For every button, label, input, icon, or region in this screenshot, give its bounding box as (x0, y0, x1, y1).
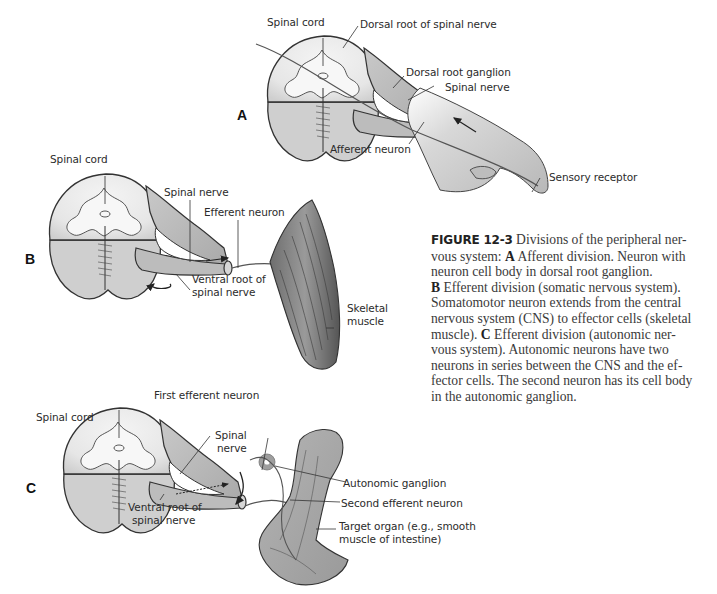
caption-text: muscle). (431, 327, 481, 342)
caption-line: nervous system (CNS) to effector cells (… (431, 311, 711, 327)
caption-line: vous system: A Afferent division. Neuron… (431, 249, 711, 265)
caption-text: Divisions of the peripheral ner- (513, 232, 687, 247)
label-c-target-organ-line2: muscle of intestine) (339, 533, 441, 546)
caption-text: Somatomotor neuron extends from the cent… (431, 295, 681, 310)
label-a-sensory-receptor: Sensory receptor (549, 171, 637, 184)
label-a-dorsal-root: Dorsal root of spinal nerve (360, 18, 497, 31)
caption-line: in the autonomic ganglion. (431, 389, 711, 405)
label-c-autonomic-ganglion: Autonomic ganglion (343, 477, 446, 490)
caption-line: B Efferent division (somatic nervous sys… (431, 280, 711, 296)
caption-text: Afferent division. Neuron with (515, 249, 686, 264)
caption-panel-ref-c: C (481, 327, 491, 342)
figure-12-3: A B C Spinal cord Dorsal root of spinal … (0, 0, 717, 594)
label-b-skeletal-muscle-line2: muscle (347, 315, 384, 328)
caption-text: neuron cell body in dorsal root ganglion… (431, 264, 653, 279)
caption-text: nervous system (CNS) to effector cells (… (431, 311, 691, 326)
skeletal-muscle-illustration (270, 200, 340, 369)
label-b-spinal-nerve: Spinal nerve (164, 186, 229, 199)
caption-text: Efferent division (somatic nervous syste… (440, 280, 681, 295)
label-b-skeletal-muscle-line1: Skeletal (347, 302, 388, 315)
caption-line: neurons in series between the CNS and th… (431, 358, 711, 374)
caption-panel-ref-a: A (505, 249, 515, 264)
label-a-spinal-nerve: Spinal nerve (445, 81, 510, 94)
caption-line: fector cells. The second neuron has its … (431, 373, 711, 389)
label-c-ventral-root-line2: spinal nerve (132, 514, 195, 527)
panel-letter-b: B (25, 251, 35, 267)
caption-text: in the autonomic ganglion. (431, 389, 577, 404)
caption-line: neuron cell body in dorsal root ganglion… (431, 264, 711, 280)
label-a-afferent-neuron: Afferent neuron (330, 143, 411, 156)
caption-line: Somatomotor neuron extends from the cent… (431, 295, 711, 311)
intestine-illustration (259, 429, 348, 584)
figure-caption: FIGURE 12-3 Divisions of the peripheral … (431, 232, 711, 405)
label-c-target-organ-line1: Target organ (e.g., smooth (339, 520, 476, 533)
label-c-spinal-cord: Spinal cord (36, 411, 94, 424)
hand-illustration (408, 88, 548, 193)
panel-letter-c: C (26, 480, 36, 496)
label-c-spinal-nerve-line1: Spinal (215, 429, 247, 442)
caption-text: neurons in series between the CNS and th… (431, 358, 682, 373)
caption-line: vous system). Autonomic neurons have two (431, 342, 711, 358)
caption-line: muscle). C Efferent division (autonomic … (431, 327, 711, 343)
label-c-ventral-root-line1: Ventral root of (128, 501, 202, 514)
label-b-efferent-neuron: Efferent neuron (204, 206, 285, 219)
caption-text: Efferent division (autonomic ner- (491, 327, 676, 342)
caption-line: FIGURE 12-3 Divisions of the peripheral … (431, 232, 711, 249)
label-c-first-efferent-neuron: First efferent neuron (154, 389, 259, 402)
caption-text: vous system: (431, 249, 505, 264)
caption-text: vous system). Autonomic neurons have two (431, 342, 669, 357)
panel-letter-a: A (237, 107, 247, 123)
label-a-dorsal-root-ganglion: Dorsal root ganglion (406, 66, 511, 79)
figure-number: FIGURE 12-3 (431, 233, 513, 247)
caption-text: fector cells. The second neuron has its … (431, 373, 692, 388)
label-b-spinal-cord: Spinal cord (50, 153, 108, 166)
label-c-second-efferent-neuron: Second efferent neuron (341, 497, 463, 510)
label-b-ventral-root-line2: spinal nerve (192, 286, 255, 299)
label-a-spinal-cord: Spinal cord (267, 16, 325, 29)
caption-panel-ref-b: B (431, 280, 440, 295)
label-c-spinal-nerve-line2: nerve (217, 442, 247, 455)
label-b-ventral-root-line1: Ventral root of (192, 273, 266, 286)
